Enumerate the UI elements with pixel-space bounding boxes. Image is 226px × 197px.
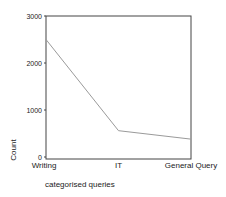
- x-tick-label: IT: [115, 161, 122, 170]
- line-chart: 0100020003000 WritingITGeneral Query Cou…: [0, 0, 226, 197]
- y-tick-label: 0: [38, 154, 42, 161]
- x-tick-label: Writing: [32, 161, 57, 170]
- x-tick-label: General Query: [165, 161, 217, 170]
- plot-frame: [46, 16, 191, 159]
- x-axis-title: categorised queries: [45, 180, 115, 189]
- y-axis-ticks: 0100020003000: [26, 13, 46, 161]
- series-line-count: [46, 40, 191, 140]
- y-tick-label: 2000: [26, 60, 42, 67]
- y-tick-label: 1000: [26, 107, 42, 114]
- y-axis-title: Count: [9, 139, 18, 161]
- y-tick-label: 3000: [26, 13, 42, 20]
- x-axis-ticks: WritingITGeneral Query: [32, 161, 218, 170]
